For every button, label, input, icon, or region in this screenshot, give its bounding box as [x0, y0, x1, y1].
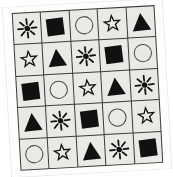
outline-star-icon: [131, 100, 160, 132]
grid-cell: [71, 41, 100, 73]
outline-circle-icon: [20, 138, 49, 170]
sunburst-icon: [46, 105, 75, 137]
grid-cell: [13, 13, 42, 45]
grid-cell: [133, 132, 162, 164]
grid-cell: [128, 38, 157, 70]
grid-cell: [18, 107, 47, 139]
filled-square-icon: [16, 75, 45, 107]
outline-star-icon: [15, 44, 44, 76]
filled-square-icon: [133, 132, 162, 164]
grid-cell: [43, 42, 72, 74]
paper-card: [2, 0, 171, 177]
grid-cell: [41, 11, 70, 43]
outline-star-icon: [73, 72, 102, 104]
grid-cell: [73, 72, 102, 104]
grid-border: [12, 5, 164, 171]
filled-triangle-icon: [43, 42, 72, 74]
grid-cell: [16, 75, 45, 107]
grid-cell: [75, 103, 104, 135]
sunburst-icon: [105, 133, 134, 165]
grid-cell: [100, 39, 129, 71]
sunburst-icon: [13, 13, 42, 45]
outline-circle-icon: [128, 38, 157, 70]
grid-cell: [76, 135, 105, 167]
sunburst-icon: [71, 41, 100, 73]
grid-cell: [45, 74, 74, 106]
outline-circle-icon: [103, 102, 132, 134]
outline-star-icon: [98, 8, 127, 40]
grid-cell: [98, 8, 127, 40]
grid-cell: [105, 133, 134, 165]
grid-cell: [103, 102, 132, 134]
filled-triangle-icon: [101, 70, 130, 102]
outline-star-icon: [48, 136, 77, 168]
grid-cell: [48, 136, 77, 168]
outline-circle-icon: [69, 9, 98, 41]
grid-cell: [15, 44, 44, 76]
sunburst-icon: [130, 69, 159, 101]
grid-cell: [101, 70, 130, 102]
outline-circle-icon: [45, 74, 74, 106]
filled-triangle-icon: [18, 107, 47, 139]
grid-cell: [130, 69, 159, 101]
filled-triangle-icon: [76, 135, 105, 167]
grid-cell: [69, 9, 98, 41]
filled-square-icon: [75, 103, 104, 135]
filled-triangle-icon: [126, 6, 155, 38]
grid-cell: [46, 105, 75, 137]
symbol-grid: [13, 6, 162, 170]
grid-cell: [20, 138, 49, 170]
grid-cell: [131, 100, 160, 132]
filled-square-icon: [100, 39, 129, 71]
filled-square-icon: [41, 11, 70, 43]
grid-cell: [126, 6, 155, 38]
scene: [0, 0, 173, 177]
